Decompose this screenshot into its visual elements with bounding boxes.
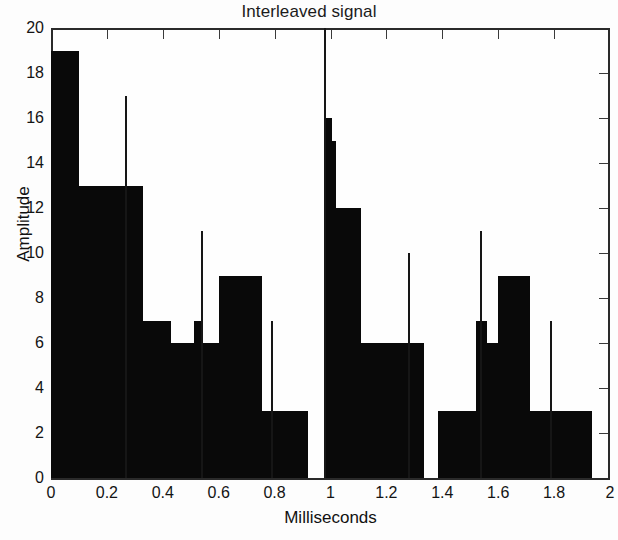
page-title: Interleaved signal xyxy=(0,2,618,22)
y-tick-label: 6 xyxy=(0,334,44,352)
x-tick-label: 0.8 xyxy=(263,484,285,502)
y-tick-mark xyxy=(599,118,608,119)
x-tick-label: 2 xyxy=(606,484,615,502)
x-tick-label: 1.4 xyxy=(431,484,453,502)
plot-area xyxy=(51,28,610,480)
x-axis-title: Milliseconds xyxy=(51,508,610,528)
y-tick-mark xyxy=(599,73,608,74)
y-tick-mark xyxy=(599,343,608,344)
x-tick-label: 0 xyxy=(47,484,56,502)
y-tick-label: 16 xyxy=(0,109,44,127)
y-tick-mark xyxy=(599,208,608,209)
y-tick-label: 20 xyxy=(0,19,44,37)
figure-canvas: Interleaved signal 00.20.40.60.811.21.41… xyxy=(0,0,618,540)
y-tick-label: 8 xyxy=(0,289,44,307)
y-tick-mark xyxy=(599,433,608,434)
y-tick-mark xyxy=(599,163,608,164)
y-tick-mark xyxy=(599,298,608,299)
y-tick-label: 2 xyxy=(0,424,44,442)
x-tick-label: 1.6 xyxy=(487,484,509,502)
y-axis-ticks xyxy=(51,28,610,480)
x-tick-label: 0.2 xyxy=(96,484,118,502)
y-axis-title: Amplitude xyxy=(14,164,34,284)
x-tick-label: 1.2 xyxy=(375,484,397,502)
y-tick-label: 0 xyxy=(0,469,44,487)
y-tick-mark xyxy=(599,388,608,389)
x-tick-label: 1 xyxy=(326,484,335,502)
x-tick-label: 1.8 xyxy=(543,484,565,502)
y-tick-label: 4 xyxy=(0,379,44,397)
y-tick-label: 18 xyxy=(0,64,44,82)
y-tick-mark xyxy=(599,253,608,254)
x-tick-label: 0.6 xyxy=(208,484,230,502)
x-tick-label: 0.4 xyxy=(152,484,174,502)
